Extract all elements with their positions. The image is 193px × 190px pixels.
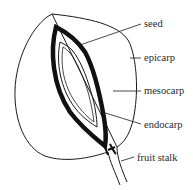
endocarp-shape (53, 27, 106, 146)
label-endocarp: endocarp (144, 120, 182, 131)
label-mesocarp: mesocarp (144, 86, 184, 97)
epicarp-outline (15, 14, 137, 159)
fruit-stalk-shape (108, 147, 127, 185)
label-fruit-stalk: fruit stalk (137, 153, 178, 164)
label-epicarp: epicarp (144, 53, 175, 64)
label-seed: seed (144, 19, 163, 30)
endocarp-leader (102, 112, 141, 124)
seed-shape (59, 42, 97, 127)
fruit-stalk-leader (121, 157, 134, 161)
